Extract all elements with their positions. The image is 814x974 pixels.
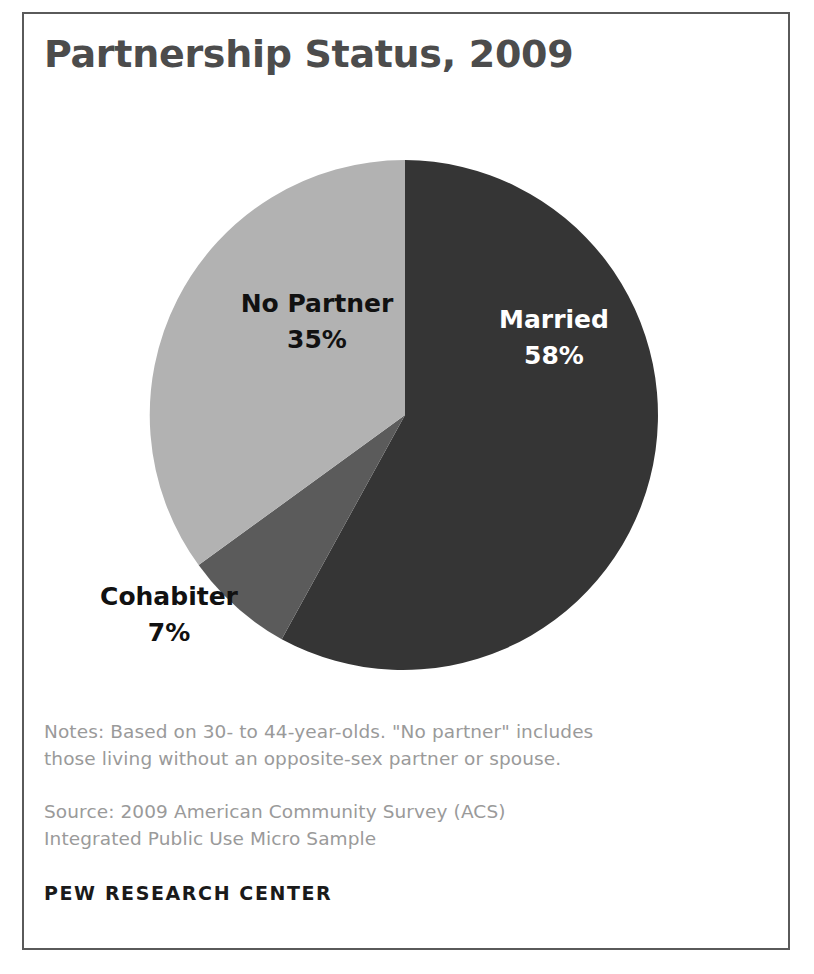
pie-chart: Married 58% No Partner 35% Cohabiter 7% xyxy=(24,124,788,704)
notes-line-1: Notes: Based on 30- to 44-year-olds. "No… xyxy=(44,719,774,746)
pie-label-married-value: 58% xyxy=(454,338,654,374)
pie-label-no-partner: No Partner 35% xyxy=(192,286,442,359)
pie-label-cohabiter-name: Cohabiter xyxy=(54,579,284,615)
organization-footer: PEW RESEARCH CENTER xyxy=(44,882,332,904)
notes-line-2: those living without an opposite-sex par… xyxy=(44,746,774,773)
pie-label-married: Married 58% xyxy=(454,302,654,375)
footer-block: PEW RESEARCH CENTER xyxy=(44,882,332,904)
chart-card: Partnership Status, 2009 Married 58% No … xyxy=(22,12,790,950)
source-line-1: Source: 2009 American Community Survey (… xyxy=(44,799,774,826)
pie-label-married-name: Married xyxy=(454,302,654,338)
source-block: Source: 2009 American Community Survey (… xyxy=(44,799,774,853)
pie-label-cohabiter-value: 7% xyxy=(54,615,284,651)
pie-label-no-partner-value: 35% xyxy=(192,322,442,358)
pie-label-no-partner-name: No Partner xyxy=(192,286,442,322)
pie-label-cohabiter: Cohabiter 7% xyxy=(54,579,284,652)
source-line-2: Integrated Public Use Micro Sample xyxy=(44,826,774,853)
page-title: Partnership Status, 2009 xyxy=(44,32,573,76)
notes-block: Notes: Based on 30- to 44-year-olds. "No… xyxy=(44,719,774,773)
